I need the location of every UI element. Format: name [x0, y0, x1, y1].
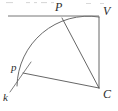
label-point-P: P [54, 0, 63, 14]
line-lowercase-p-to-c [23, 73, 99, 88]
diagonal-line-p-to-c [62, 18, 99, 88]
label-point-V: V [103, 4, 112, 18]
label-point-p-lower: p [10, 61, 17, 73]
quarter-circle-arc [17, 16, 99, 86]
label-line-k: k [3, 91, 9, 103]
label-point-C: C [103, 87, 112, 101]
geometry-diagram: P V p k C [0, 0, 118, 111]
figure-canvas: P V p k C [0, 0, 118, 111]
